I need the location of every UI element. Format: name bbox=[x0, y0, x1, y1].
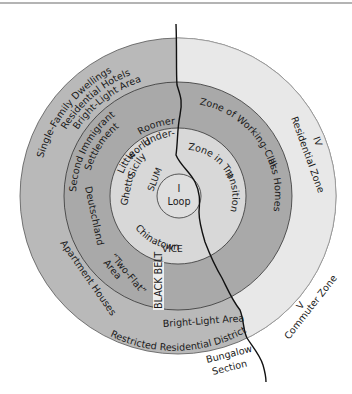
label-loop-numeral: I bbox=[178, 183, 181, 194]
label-vice: VICE bbox=[162, 244, 183, 254]
concentric-zone-diagram: Single-Family Dwellings Residential Hote… bbox=[0, 0, 352, 394]
label-loop: Loop bbox=[167, 196, 190, 207]
label-black-belt: BLACK BELT bbox=[153, 252, 164, 309]
